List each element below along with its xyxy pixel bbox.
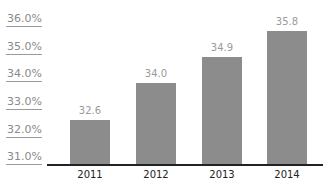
x-tick-label: 2013: [192, 169, 252, 180]
x-tick-label: 2014: [257, 169, 317, 180]
bar-2014: [267, 31, 307, 164]
y-tick-label: 34.0%: [6, 68, 42, 82]
value-label: 32.6: [60, 105, 120, 116]
x-tick-label: 2012: [126, 169, 186, 180]
x-axis-line: [47, 164, 323, 166]
y-tick-label: 36.0%: [6, 13, 42, 27]
value-label: 35.8: [257, 16, 317, 27]
y-tick-label: 35.0%: [6, 41, 42, 55]
y-tick-label: 31.0%: [6, 151, 42, 165]
y-tick-label: 32.0%: [6, 124, 42, 138]
value-label: 34.0: [126, 68, 186, 79]
value-label: 34.9: [192, 42, 252, 53]
y-tick-label: 33.0%: [6, 96, 42, 110]
bar-2012: [136, 83, 176, 164]
x-tick-label: 2011: [60, 169, 120, 180]
bar-2011: [70, 120, 110, 164]
bar-2013: [202, 57, 242, 164]
